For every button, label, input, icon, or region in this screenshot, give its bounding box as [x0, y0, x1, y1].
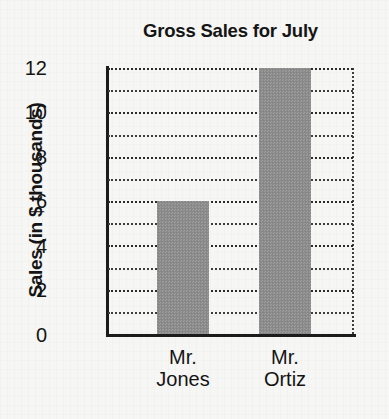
y-tick-label-8: 8	[17, 147, 47, 167]
gridline-7	[108, 179, 353, 181]
gridline-1	[108, 312, 353, 314]
gridline-3	[108, 268, 353, 270]
gridline-11	[108, 90, 353, 92]
gridline-9	[108, 135, 353, 137]
plot-area	[108, 68, 353, 334]
bar-mr-jones[interactable]	[157, 201, 209, 334]
y-tick-label-12: 12	[17, 58, 47, 78]
y-tick-label-6: 6	[17, 191, 47, 211]
gridline-12	[108, 68, 353, 70]
gridline-10	[108, 112, 353, 114]
y-tick-label-10: 10	[17, 102, 47, 122]
y-tick-label-4: 4	[17, 236, 47, 256]
bar-chart-figure: Gross Sales for July Sales (in $ thousan…	[0, 0, 389, 419]
x-tick-label-mr-ortiz-line1: Mr.	[225, 346, 345, 368]
x-axis-line	[106, 334, 356, 337]
gridline-6	[108, 201, 353, 203]
gridline-8	[108, 157, 353, 159]
y-tick-label-0: 0	[17, 325, 47, 345]
bar-mr-ortiz[interactable]	[259, 68, 311, 334]
x-tick-label-mr-ortiz: Mr. Ortiz	[225, 346, 345, 391]
x-tick-label-mr-ortiz-line2: Ortiz	[225, 368, 345, 390]
gridline-5	[108, 223, 353, 225]
y-tick-label-2: 2	[17, 280, 47, 300]
gridline-4	[108, 245, 353, 247]
chart-title: Gross Sales for July	[108, 20, 353, 42]
gridline-2	[108, 290, 353, 292]
